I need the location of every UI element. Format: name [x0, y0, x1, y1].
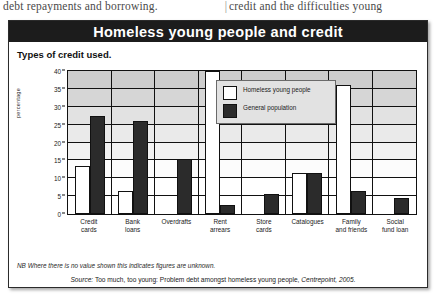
x-axis-tick-label: Familyand friends	[330, 218, 374, 234]
bar-general-population	[90, 116, 105, 214]
y-axis-tick-label: 35	[54, 86, 61, 90]
y-axis-tick-mark	[62, 195, 65, 196]
bar-homeless-young-people	[292, 173, 307, 214]
bar-homeless-young-people	[118, 191, 133, 214]
y-axis-tick-label: 20	[54, 140, 61, 144]
body-text-right-column: credit and the difficulties young	[229, 0, 436, 12]
chart-page: debt repayments and borrowing. | credit …	[0, 0, 436, 296]
bar-homeless-young-people	[75, 166, 90, 214]
body-text-left-column: debt repayments and borrowing.	[0, 0, 223, 12]
y-axis-tick-label: 0	[57, 211, 61, 215]
bar-general-population	[133, 121, 148, 214]
y-axis-tick-mark	[62, 213, 65, 214]
y-axis-tick-mark	[62, 70, 65, 71]
bar-homeless-young-people	[336, 85, 351, 214]
bar-general-population	[351, 191, 366, 214]
y-axis-tick-mark	[62, 87, 65, 88]
y-axis-tick-mark	[62, 177, 65, 178]
surrounding-body-text: debt repayments and borrowing. | credit …	[0, 0, 436, 17]
legend-label-homeless: Homeless young people	[243, 86, 311, 93]
x-axis-tick-label: Creditcards	[67, 218, 111, 234]
y-axis-tick-label: 15	[54, 157, 61, 161]
y-axis-tick-mark	[62, 141, 65, 142]
x-axis-tick-label: Socialfund loan	[373, 218, 417, 234]
y-axis-label: percentage	[15, 88, 21, 118]
chart-area: percentage 0510152025303540 Homeless you…	[15, 66, 421, 244]
legend-item-homeless: Homeless young people	[223, 86, 330, 100]
source-prefix: Source:	[70, 276, 93, 283]
y-axis-tick-mark	[62, 159, 65, 160]
x-axis-labels: CreditcardsBankloansOverdraftsRentarrear…	[67, 218, 417, 234]
y-axis-tick-mark	[62, 105, 65, 106]
legend-swatch-icon-homeless	[223, 86, 237, 100]
figure-panel: Homeless young people and credit Types o…	[8, 20, 428, 288]
x-axis-tick-label: Catalogues	[286, 218, 330, 234]
bar-group	[68, 71, 112, 214]
bar-general-population	[177, 159, 192, 214]
bar-group	[373, 71, 417, 214]
y-axis-tick-label: 30	[54, 104, 61, 108]
bar-general-population	[307, 173, 322, 214]
bar-general-population	[220, 205, 235, 214]
source-text: Too much, too young: Problem debt amongs…	[95, 276, 300, 283]
chart-legend: Homeless young people General population	[216, 80, 336, 124]
source-publisher: Centrepoint, 2005.	[301, 276, 355, 283]
source-line: Source: Too much, too young: Problem deb…	[9, 276, 427, 283]
chart-subtitle: Types of credit used.	[17, 49, 427, 60]
legend-swatch-icon-general	[223, 104, 237, 118]
x-axis-tick-label: Rentarrears	[198, 218, 242, 234]
legend-item-general: General population	[223, 104, 330, 118]
x-axis-tick-label: Overdrafts	[155, 218, 199, 234]
y-axis-tick-label: 40	[54, 68, 61, 72]
y-axis-tick-mark	[62, 123, 65, 124]
y-axis: 0510152025303540	[45, 66, 65, 217]
bar-general-population	[264, 194, 279, 214]
plot-region: Homeless young people General population	[67, 70, 417, 215]
legend-label-general: General population	[243, 104, 296, 111]
y-axis-tick-label: 5	[57, 193, 61, 197]
bar-group	[155, 71, 199, 214]
bar-general-population	[394, 198, 409, 214]
panel-title: Homeless young people and credit	[9, 21, 427, 42]
y-axis-tick-label: 10	[54, 175, 61, 179]
y-axis-tick-label: 25	[54, 122, 61, 126]
x-axis-tick-label: Bankloans	[111, 218, 155, 234]
x-axis-tick-label: Storecards	[242, 218, 286, 234]
chart-note: NB Where there is no value shown this in…	[17, 262, 427, 269]
bar-group	[112, 71, 156, 214]
